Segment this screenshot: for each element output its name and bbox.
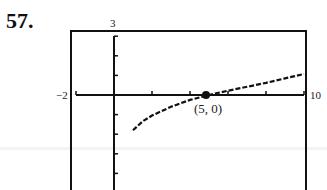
graph-window <box>0 0 327 190</box>
x-intercept-point <box>202 91 210 99</box>
function-curve <box>133 74 304 130</box>
viewing-window-frame <box>71 31 306 190</box>
